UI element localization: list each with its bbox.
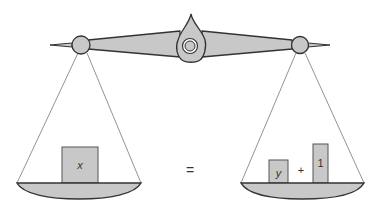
pivot-ring-inner: [185, 41, 195, 51]
equals-sign: =: [186, 162, 194, 178]
left-joint: [72, 36, 90, 54]
balance-scale-diagram: x = y + 1: [0, 0, 386, 210]
right-pan-bowl: [241, 183, 364, 199]
left-pan-bowl: [17, 183, 141, 199]
right-pan: y + 1: [241, 144, 364, 199]
plus-sign: +: [298, 164, 304, 176]
right-joint: [292, 37, 309, 54]
scale-beam: [50, 14, 330, 62]
block-x-label: x: [76, 159, 83, 171]
left-pan: x: [17, 147, 141, 199]
block-one-label: 1: [317, 157, 323, 169]
